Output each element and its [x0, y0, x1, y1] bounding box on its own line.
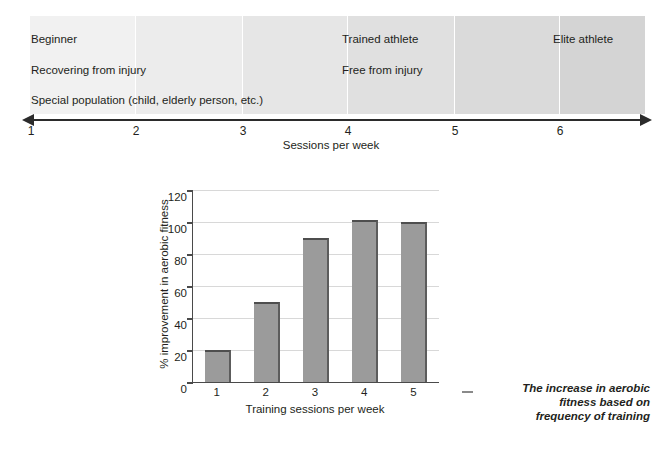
continuum-axis-line [30, 119, 645, 121]
figure-caption: The increase in aerobic fitness based on… [478, 381, 650, 423]
chart-plot-area: 020406080100120 [192, 190, 439, 383]
chart-bar [303, 238, 329, 382]
continuum-tick-4: 4 [338, 124, 358, 138]
chart-x-tick-label: 3 [302, 386, 328, 398]
chart-y-tick-label: 20 [147, 351, 187, 363]
chart-x-tick-label: 5 [400, 386, 426, 398]
axis-arrow-right-icon [640, 114, 652, 126]
caption-line-3: frequency of training [478, 409, 650, 423]
chart-y-tick-label: 80 [147, 255, 187, 267]
chart-x-axis-title: Training sessions per week [192, 403, 438, 415]
sessions-continuum-diagram: Beginner Recovering from injury Special … [0, 0, 662, 150]
chart-y-tick [187, 286, 193, 288]
chart-y-tick [187, 318, 193, 320]
continuum-label-elite-athlete: Elite athlete [553, 33, 613, 45]
caption-line-1: The increase in aerobic [478, 381, 650, 395]
chart-y-tick [187, 350, 193, 352]
chart-bar [352, 220, 378, 382]
caption-line-2: fitness based on [478, 395, 650, 409]
chart-x-tick-label: 1 [204, 386, 230, 398]
chart-x-tick-label: 2 [253, 386, 279, 398]
continuum-label-free-from-injury: Free from injury [342, 64, 423, 76]
continuum-tick-6: 6 [550, 124, 570, 138]
chart-bar [205, 350, 231, 382]
continuum-band-6 [560, 16, 645, 114]
continuum-axis-title: Sessions per week [0, 139, 662, 151]
chart-bar [254, 302, 280, 382]
continuum-tick-5: 5 [445, 124, 465, 138]
continuum-label-special-population: Special population (child, elderly perso… [31, 94, 263, 106]
continuum-band-5 [455, 16, 560, 114]
chart-gridline [193, 190, 439, 191]
chart-x-tick-label: 4 [351, 386, 377, 398]
chart-bar [401, 222, 427, 382]
caption-rule [462, 391, 473, 393]
continuum-label-beginner: Beginner [31, 33, 77, 45]
chart-y-tick [187, 190, 193, 192]
chart-y-tick-label: 0 [147, 383, 187, 395]
chart-y-tick-label: 40 [147, 319, 187, 331]
continuum-label-recovering-from-injury: Recovering from injury [31, 64, 146, 76]
chart-y-tick-label: 60 [147, 287, 187, 299]
chart-y-tick-label: 100 [147, 223, 187, 235]
continuum-tick-3: 3 [233, 124, 253, 138]
chart-y-tick [187, 222, 193, 224]
chart-y-tick [187, 254, 193, 256]
continuum-tick-1: 1 [21, 124, 41, 138]
chart-y-tick [187, 382, 193, 384]
continuum-tick-2: 2 [126, 124, 146, 138]
chart-y-tick-label: 120 [147, 191, 187, 203]
continuum-label-trained-athlete: Trained athlete [342, 33, 418, 45]
aerobic-fitness-bar-chart: % improvement in aerobic fitness 0204060… [148, 182, 448, 412]
